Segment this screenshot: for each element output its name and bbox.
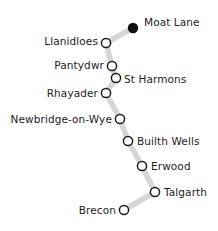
station-marker[interactable]: [119, 205, 128, 214]
station-label: Builth Wells: [137, 136, 200, 147]
station-label: Llanidloes: [44, 36, 98, 47]
station-marker[interactable]: [101, 88, 110, 97]
station-marker[interactable]: [101, 38, 110, 47]
station-label: Newbridge-on-Wye: [11, 114, 113, 125]
railway-line-diagram: Moat LaneLlanidloesPantydwrSt HarmonsRha…: [0, 0, 218, 231]
route-line: [106, 28, 155, 210]
station-marker[interactable]: [123, 136, 132, 145]
station-label: Brecon: [79, 205, 116, 216]
station-label: Moat Lane: [144, 17, 200, 28]
station-marker[interactable]: [150, 187, 159, 196]
station-label: St Harmons: [124, 74, 186, 85]
station-label: Erwood: [151, 161, 191, 172]
station-label: Talgarth: [164, 187, 207, 198]
station-marker[interactable]: [107, 61, 116, 70]
station-label: Rhayader: [47, 88, 98, 99]
station-marker[interactable]: [137, 161, 146, 170]
station-label: Pantydwr: [54, 60, 104, 71]
station-marker[interactable]: [115, 114, 124, 123]
station-marker[interactable]: [111, 73, 120, 82]
station-marker[interactable]: [128, 23, 138, 33]
